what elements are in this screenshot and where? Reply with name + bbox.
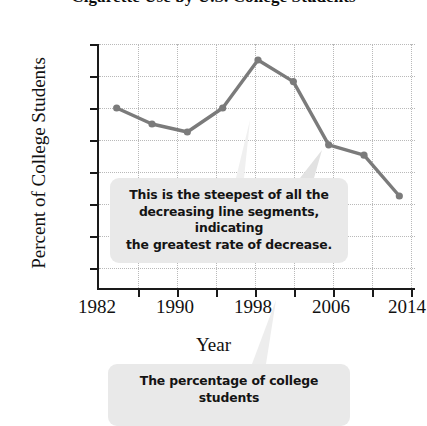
y-axis-tick xyxy=(90,76,99,78)
x-tick-label: 2014 xyxy=(367,296,427,318)
callout-line-3: the greatest rate of decrease. xyxy=(116,237,342,254)
data-point xyxy=(113,104,120,111)
chart-title: Cigarette Use by U.S. College Students xyxy=(0,0,427,7)
x-tick-label: 1990 xyxy=(135,296,215,318)
y-axis-tick xyxy=(90,108,99,110)
callout-bottom-line-1: The percentage of college students xyxy=(114,373,344,406)
x-tick-label: 1998 xyxy=(213,296,293,318)
x-tick-label: 2006 xyxy=(291,296,371,318)
y-axis-tick xyxy=(90,140,99,142)
data-point xyxy=(254,56,261,63)
y-axis-tick xyxy=(90,44,99,46)
data-point xyxy=(219,104,226,111)
data-point xyxy=(184,128,191,135)
data-point xyxy=(290,78,297,85)
x-tick-label: 1982 xyxy=(57,296,137,318)
y-axis-tick xyxy=(90,268,99,270)
y-axis-tick xyxy=(90,204,99,206)
callout-line-2: decreasing line segments, indicating xyxy=(116,204,342,237)
data-point xyxy=(148,120,155,127)
callout-bottom: The percentage of college students xyxy=(108,364,350,426)
data-point xyxy=(396,192,403,199)
callout-line-1: This is the steepest of all the xyxy=(116,187,342,204)
data-point xyxy=(360,152,367,159)
callout-steepest-segment: This is the steepest of all the decreasi… xyxy=(110,178,348,263)
data-point xyxy=(325,141,332,148)
x-axis-title: Year xyxy=(0,334,427,356)
y-axis-title: Percent of College Students xyxy=(28,38,50,288)
y-axis-tick xyxy=(90,172,99,174)
y-axis-tick xyxy=(90,236,99,238)
